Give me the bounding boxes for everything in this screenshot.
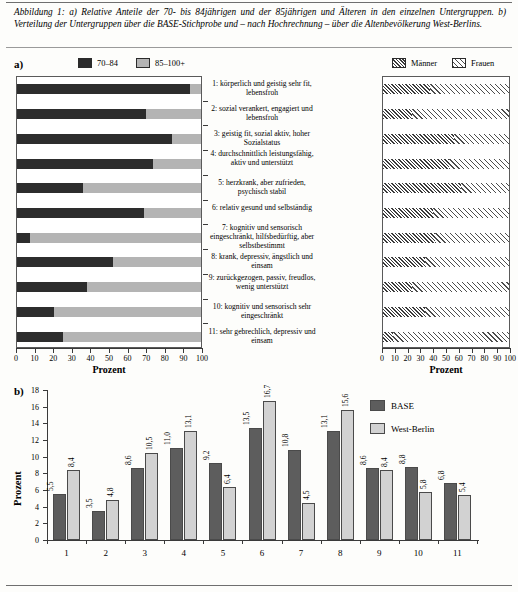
- chart-b-y-tick-label: 18: [19, 386, 39, 395]
- chart-b-y-tick: [43, 407, 47, 408]
- chart-b-y-tick: [43, 423, 47, 424]
- chart-b-y-tick-label: 2: [19, 519, 39, 528]
- y-tick: [203, 125, 208, 126]
- chart-b-bar-west-berlin: [67, 470, 80, 540]
- chart-b-y-tick-label: 8: [19, 469, 39, 478]
- divider-caption: [6, 47, 512, 48]
- x-tick: [420, 349, 421, 353]
- legend-label-frauen: Frauen: [471, 59, 494, 68]
- y-tick: [203, 101, 208, 102]
- chart-b-y-tick-label: 4: [19, 502, 39, 511]
- chart-b-x-tick-label: 2: [103, 548, 108, 558]
- bar-segment-frauen: [433, 208, 509, 218]
- bar-segment-frauen: [412, 109, 509, 119]
- group-label-7: 7: kognitiv und sensorisch eingeschränkt…: [206, 223, 318, 250]
- legend-age-70-84: 70–84: [78, 58, 118, 68]
- chart-b-x-tick-label: 5: [221, 548, 226, 558]
- legend-sex-frauen: Frauen: [452, 58, 494, 68]
- x-tick-label: 40: [86, 354, 94, 363]
- bar-segment-70–84: [17, 109, 146, 119]
- chart-b-value-label: 5,5: [46, 482, 55, 492]
- bar-segment-frauen: [430, 84, 509, 94]
- chart-b-bar-base: [327, 431, 340, 540]
- chart-b-bar-base: [405, 467, 418, 540]
- legend-swatch-light-icon: [136, 58, 150, 68]
- bar-segment-frauen: [449, 159, 509, 169]
- y-tick: [203, 175, 208, 176]
- group-label-5: 5: herzkrank, aber zufrieden, psychisch …: [206, 178, 318, 196]
- bar-segment-85–100+: [146, 109, 201, 119]
- group-label-8: 8: krank, depressiv, ängstlich und einsa…: [206, 252, 318, 270]
- x-tick: [165, 349, 166, 353]
- bar-segment-85–100+: [113, 257, 201, 267]
- chart-b-value-label: 11,0: [163, 432, 172, 445]
- group-label-6: 6: relativ gesund und selbständig: [206, 203, 318, 212]
- x-tick: [459, 349, 460, 353]
- chart-b-x-tick: [164, 540, 165, 544]
- chart-b-bar-base: [444, 483, 457, 540]
- chart-b-bar-west-berlin: [302, 503, 315, 541]
- chart-b-y-tick-label: 14: [19, 419, 39, 428]
- chart-b-x-tick-label: 1: [64, 548, 69, 558]
- legend-swatch-women-icon: [452, 58, 466, 68]
- x-tick: [109, 349, 110, 353]
- bar-segment-85–100+: [153, 159, 201, 169]
- stacked-bar: [17, 233, 201, 243]
- x-tick: [35, 349, 36, 353]
- bar-segment-85–100+: [87, 282, 201, 292]
- chart-b-value-label: 15,6: [341, 394, 350, 407]
- y-tick: [203, 299, 208, 300]
- x-tick: [472, 349, 473, 353]
- chart-b-value-label: 4,8: [106, 488, 115, 498]
- stacked-bar: [17, 183, 201, 193]
- chart-b-bar-west-berlin: [106, 500, 119, 540]
- chart-b-bar-base: [92, 511, 105, 540]
- bar-segment-70–84: [17, 257, 113, 267]
- bar-segment-85–100+: [172, 134, 201, 144]
- bar-segment-frauen: [435, 233, 509, 243]
- bar-segment-männer: [383, 134, 454, 144]
- bar-segment-männer: [383, 332, 393, 342]
- bar-segment-männer: [383, 208, 433, 218]
- chart-b-y-tick-label: 0: [19, 536, 39, 545]
- bar-segment-85–100+: [144, 208, 201, 218]
- chart-b-value-label: 9,2: [202, 451, 211, 461]
- chart-b-bar-west-berlin: [380, 470, 393, 540]
- chart-b-value-label: 10,5: [145, 436, 154, 449]
- chart-b-x-tick-label: 10: [414, 548, 423, 558]
- legend-b-west-berlin: West-Berlin: [370, 423, 434, 434]
- x-tick: [497, 349, 498, 353]
- stacked-bar: [383, 208, 509, 218]
- bar-segment-70–84: [17, 332, 63, 342]
- x-tick-label: 80: [480, 354, 488, 363]
- chart-b-x-tick: [282, 540, 283, 544]
- group-label-2: 2: sozial verankert, engagiert und leben…: [206, 104, 318, 122]
- figure-page: Abbildung 1: a) Relative Anteile der 70-…: [0, 0, 518, 592]
- x-tick-label: 0: [380, 354, 384, 363]
- stacked-bar: [17, 307, 201, 317]
- bar-segment-männer: [383, 233, 435, 243]
- x-tick-label: 70: [142, 354, 150, 363]
- stacked-bar: [17, 332, 201, 342]
- bar-segment-70–84: [17, 233, 30, 243]
- bar-segment-männer: [383, 307, 425, 317]
- bar-segment-85–100+: [30, 233, 201, 243]
- bar-segment-frauen: [425, 257, 509, 267]
- stacked-bar: [383, 84, 509, 94]
- bar-segment-männer: [383, 159, 449, 169]
- x-tick-label: 30: [68, 354, 76, 363]
- x-tick-label: 70: [468, 354, 476, 363]
- chart-b-value-label: 8,6: [359, 456, 368, 466]
- x-tick: [446, 349, 447, 353]
- chart-b-x-tick: [438, 540, 439, 544]
- bar-segment-männer: [383, 282, 412, 292]
- x-tick: [128, 349, 129, 353]
- bar-segment-männer: [383, 84, 430, 94]
- x-tick-label: 0: [14, 354, 18, 363]
- chart-b-bar-west-berlin: [145, 453, 158, 541]
- bar-segment-frauen: [393, 332, 509, 342]
- stacked-bar: [383, 159, 509, 169]
- chart-b-value-label: 8,8: [398, 454, 407, 464]
- stacked-bar: [383, 183, 509, 193]
- chart-b-x-tick-label: 4: [182, 548, 187, 558]
